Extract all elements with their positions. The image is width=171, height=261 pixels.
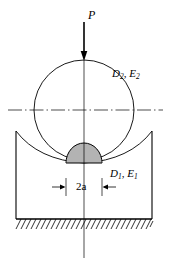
lower-body-modulus-symbol: E bbox=[127, 167, 134, 179]
figure-drawing bbox=[0, 0, 171, 261]
upper-body-modulus-subscript: 2 bbox=[136, 72, 140, 81]
load-label-P: P bbox=[88, 9, 95, 21]
upper-body-label: D2, E2 bbox=[112, 68, 140, 79]
upper-body-diameter-subscript: 2 bbox=[120, 72, 124, 81]
load-arrow bbox=[81, 22, 88, 61]
lower-body-modulus-subscript: 1 bbox=[134, 172, 138, 181]
contact-width-label: 2a bbox=[76, 181, 86, 192]
upper-body-diameter-symbol: D bbox=[112, 67, 120, 79]
upper-body-modulus-symbol: E bbox=[129, 67, 136, 79]
ground-support-hatching bbox=[16, 219, 153, 229]
lower-body-diameter-symbol: D bbox=[110, 167, 118, 179]
lower-body-diameter-subscript: 1 bbox=[118, 172, 122, 181]
hertzian-contact-figure: P D2, E2 D1, E1 2a bbox=[0, 0, 171, 261]
lower-body-label: D1, E1 bbox=[110, 168, 138, 179]
